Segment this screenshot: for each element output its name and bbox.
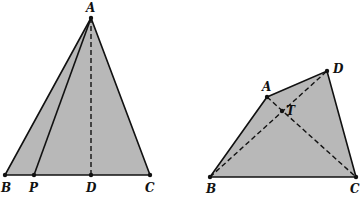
point-d (325, 69, 329, 73)
label-a: A (85, 1, 95, 15)
label-c: C (350, 182, 360, 196)
quadrilateral-abcd-fill (210, 71, 356, 177)
left-triangle: A B P D C (0, 1, 155, 195)
label-d: D (332, 62, 344, 76)
label-p: P (28, 181, 39, 195)
point-b (3, 173, 7, 177)
diagram-canvas: A B P D C A D T B C (0, 0, 363, 203)
point-t (280, 109, 284, 113)
point-b (208, 175, 212, 179)
point-a (265, 95, 269, 99)
label-a: A (261, 80, 271, 94)
label-b: B (0, 181, 11, 195)
label-t: T (286, 104, 296, 118)
label-d: D (85, 181, 97, 195)
label-b: B (205, 182, 216, 196)
label-c: C (145, 181, 155, 195)
point-p (32, 173, 36, 177)
right-quadrilateral: A D T B C (205, 62, 360, 196)
triangle-abc-fill (5, 18, 150, 175)
point-c (148, 173, 152, 177)
point-d (89, 173, 93, 177)
geometry-diagram: A B P D C A D T B C (0, 0, 363, 203)
point-a (89, 16, 93, 20)
point-c (354, 175, 358, 179)
